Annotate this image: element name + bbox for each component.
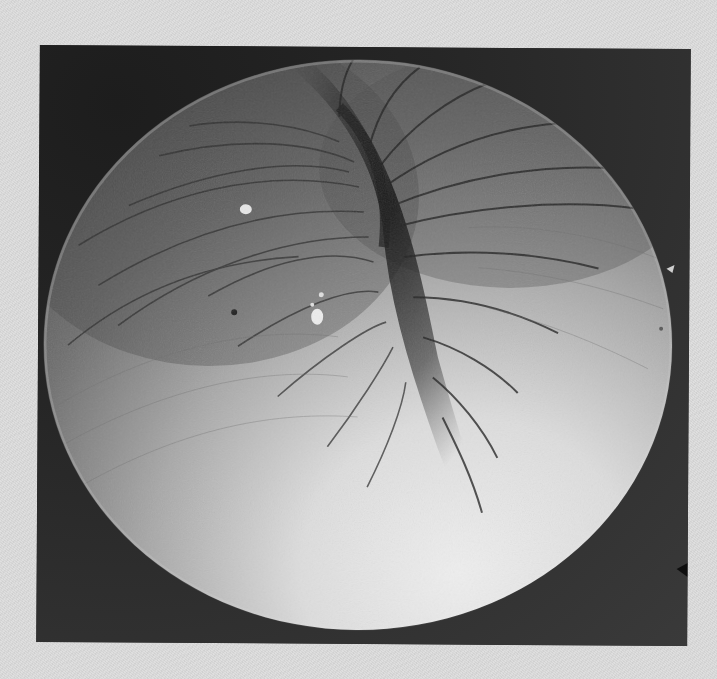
specimen-sphere [36, 45, 691, 646]
micrograph-frame [36, 45, 691, 646]
frame-mark [677, 563, 688, 577]
